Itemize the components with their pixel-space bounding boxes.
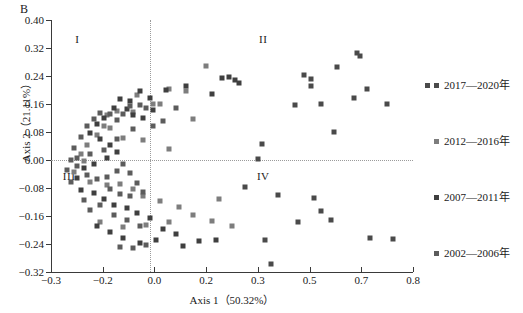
scatter-point [144, 105, 149, 110]
scatter-point [262, 238, 267, 243]
scatter-point [118, 244, 123, 249]
scatter-point [101, 116, 106, 121]
scatter-point [88, 207, 93, 212]
scatter-point [216, 197, 221, 202]
y-tick-label: −0.24 [0, 239, 44, 250]
scatter-point [131, 246, 136, 251]
scatter-point [101, 147, 106, 152]
scatter-point [111, 213, 116, 218]
scatter-point [121, 136, 126, 141]
scatter-point [101, 123, 106, 128]
scatter-point [114, 118, 119, 123]
scatter-point [78, 188, 83, 193]
scatter-point [147, 216, 152, 221]
scatter-point [88, 151, 93, 156]
scatter-point [101, 197, 106, 202]
scatter-point [88, 179, 93, 184]
scatter-point [118, 97, 123, 102]
scatter-point [131, 127, 136, 132]
legend-item[interactable]: 2002—2006年 [425, 246, 510, 260]
scatter-point [174, 232, 179, 237]
scatter-point [75, 175, 80, 180]
scatter-point [78, 135, 83, 140]
scatter-point [151, 123, 156, 128]
y-tick-label: −0.16 [0, 211, 44, 222]
scatter-point [81, 159, 86, 164]
scatter-point [177, 204, 182, 209]
scatter-point [157, 199, 162, 204]
scatter-point [95, 223, 100, 228]
scatter-point [276, 193, 281, 198]
x-tick-label: 0.5 [303, 275, 317, 286]
scatter-point [328, 218, 333, 223]
x-tick-label: −0.2 [93, 275, 113, 286]
legend-item[interactable]: 2007—2011年 [425, 190, 510, 204]
scatter-point [167, 146, 172, 151]
scatter-point [332, 129, 337, 134]
scatter-point [174, 106, 179, 111]
scatter-point [144, 223, 149, 228]
scatter-point [312, 195, 317, 200]
x-tick-label: 0.3 [251, 275, 265, 286]
scatter-point [141, 116, 146, 121]
chart-root: B 0.400.320.240.160.080.00−0.08−0.16−0.2… [0, 0, 523, 313]
scatter-point [183, 83, 188, 88]
scatter-point [118, 181, 123, 186]
y-axis-title: Axis 2（21.11%） [17, 40, 33, 200]
scatter-point [190, 117, 195, 122]
scatter-point [160, 118, 165, 123]
scatter-point [108, 112, 113, 117]
scatter-point [358, 53, 363, 58]
scatter-point [183, 89, 188, 94]
scatter-point [95, 121, 100, 126]
scatter-point [364, 86, 369, 91]
scatter-point [141, 189, 146, 194]
scatter-point [91, 162, 96, 167]
scatter-point [243, 184, 248, 189]
scatter-point [230, 223, 235, 228]
scatter-point [137, 102, 142, 107]
scatter-point [210, 91, 215, 96]
scatter-point [91, 190, 96, 195]
scatter-point [98, 111, 103, 116]
scatter-point [72, 170, 77, 175]
scatter-point [134, 211, 139, 216]
x-axis-line [51, 272, 413, 273]
scatter-point [154, 237, 159, 242]
scatter-point [151, 108, 156, 113]
scatter-point [104, 155, 109, 160]
plot-area: IIIIIIIV [51, 20, 413, 272]
scatter-point [68, 180, 73, 185]
scatter-point [104, 174, 109, 179]
scatter-point [131, 186, 136, 191]
scatter-point [180, 244, 185, 249]
legend-swatch-icon [434, 139, 439, 144]
scatter-point [88, 131, 93, 136]
scatter-point [127, 194, 132, 199]
legend-swatch-icon [434, 195, 439, 200]
scatter-point [85, 142, 90, 147]
quadrant-label-ii: II [259, 33, 267, 45]
scatter-point [308, 77, 313, 82]
scatter-point [121, 236, 126, 241]
scatter-point [121, 162, 126, 167]
scatter-point [114, 168, 119, 173]
scatter-point [108, 126, 113, 131]
legend-item[interactable]: 2017—2020年 [425, 78, 510, 92]
legend-label: 2007—2011年 [444, 192, 510, 203]
legend-item[interactable]: 2012—2016年 [425, 134, 510, 148]
scatter-point [91, 116, 96, 121]
x-tick-label: −0.3 [41, 275, 61, 286]
scatter-point [95, 177, 100, 182]
quadrant-label-iv: IV [257, 170, 270, 182]
scatter-point [335, 65, 340, 70]
scatter-point [98, 202, 103, 207]
legend-swatch-icon [434, 251, 439, 256]
legend-label: 2017—2020年 [444, 80, 510, 91]
legend-label: 2002—2006年 [444, 248, 510, 259]
scatter-point [108, 230, 113, 235]
scatter-point [269, 262, 274, 267]
scatter-point [160, 226, 165, 231]
scatter-point [81, 197, 86, 202]
scatter-point [210, 219, 215, 224]
